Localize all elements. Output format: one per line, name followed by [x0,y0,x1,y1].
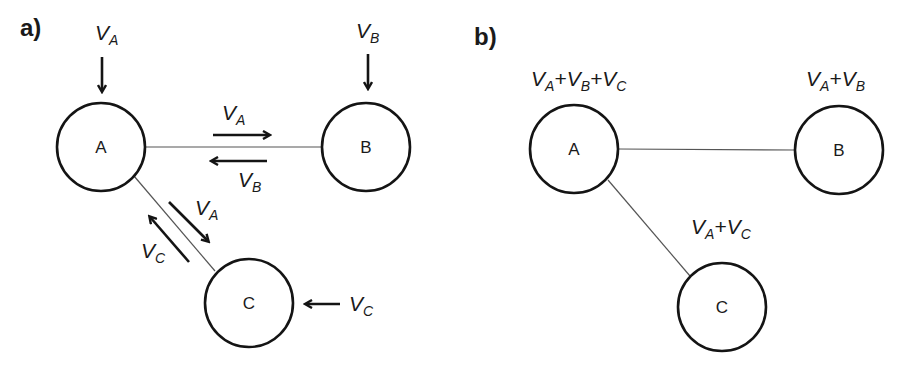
input-vc-label: VC [349,292,374,319]
diagram-canvas: a) A B C VA VB VC VA VB VA VC b) [0,0,905,372]
node-a-label: A [95,138,107,157]
node-a-label: A [568,140,580,159]
edge-a-b [618,149,795,150]
flow-ab-vb-label: VB [238,168,261,195]
node-b-label: B [360,138,371,157]
input-va-label: VA [95,21,118,48]
node-c-label: C [243,294,255,313]
panel-b: b) A B C VA+VB+VC VA+VB VA+VC [474,23,883,351]
node-b-label: B [833,141,844,160]
sum-c-label: VA+VC [691,215,752,242]
flow-ab-va-label: VA [222,101,245,128]
flow-ac-va-label: VA [195,196,218,223]
node-c-label: C [716,298,728,317]
panel-a: a) A B C VA VB VC VA VB VA VC [20,14,410,347]
sum-b-label: VA+VB [806,67,865,94]
flow-ac-vc-label: VC [141,239,166,266]
sum-a-label: VA+VB+VC [531,67,627,94]
input-vb-label: VB [356,19,379,46]
panel-a-label: a) [20,14,41,41]
edge-a-c [608,180,690,276]
panel-b-label: b) [474,23,497,50]
